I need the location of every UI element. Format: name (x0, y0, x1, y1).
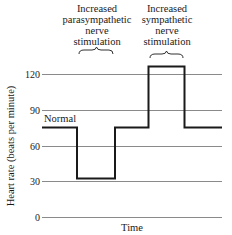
para-line-3: nerve (85, 25, 109, 36)
symp-line-1: Increased (147, 3, 188, 14)
normal-label: Normal (44, 113, 76, 124)
para-line-4: stimulation (73, 36, 121, 47)
gridlines (42, 75, 222, 218)
para-line-1: Increased (77, 3, 118, 14)
para-brace-icon (79, 47, 113, 54)
heart-rate-chart: 120 90 60 30 0 Heart rate (beats per min… (0, 0, 232, 235)
y-tick-30: 30 (30, 176, 40, 187)
para-line-2: parasympathetic (63, 14, 132, 25)
symp-line-4: stimulation (143, 36, 191, 47)
y-tick-90: 90 (30, 105, 40, 116)
sympathetic-annotation: Increased sympathetic nerve stimulation (142, 3, 193, 58)
symp-line-2: sympathetic (142, 14, 193, 25)
y-tick-0: 0 (35, 212, 40, 223)
symp-brace-icon (150, 51, 183, 58)
y-tick-60: 60 (30, 141, 40, 152)
parasympathetic-annotation: Increased parasympathetic nerve stimulat… (63, 3, 132, 54)
symp-line-3: nerve (155, 25, 179, 36)
y-tick-labels: 120 90 60 30 0 (25, 69, 40, 223)
x-axis-label: Time (121, 222, 143, 233)
y-tick-120: 120 (25, 69, 40, 80)
y-axis-label: Heart rate (beats per minute) (5, 85, 17, 206)
